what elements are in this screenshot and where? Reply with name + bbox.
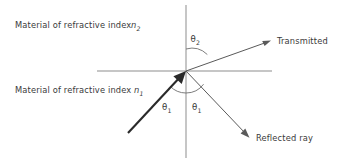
angle-label-theta1-reflection: θ [192,102,197,112]
transmitted-label: Transmitted [276,36,328,46]
reflected-label: Reflected ray [256,133,313,143]
angle-label-theta1-incidence: θ [162,102,167,112]
medium-upper-symbol: n [131,20,136,30]
medium-upper-label: Material of refractive index [15,20,131,30]
angle-label-theta2-subscript: 2 [196,39,200,46]
angle-label-theta1-reflection-subscript: 1 [198,107,202,114]
transmitted-ray-arrowhead [262,41,271,47]
medium-lower-symbol: n [134,85,139,95]
angle-label-theta1-incidence-subscript: 1 [168,107,172,114]
medium-upper-subscript: 2 [137,25,141,32]
optics-refraction-diagram: Material of refractive index n 2 Materia… [0,0,339,163]
diagram-canvas: Material of refractive index n 2 Materia… [0,0,339,163]
medium-lower-label: Material of refractive index [15,85,131,95]
angle-arc-theta1-incidence [170,86,186,93]
angle-label-theta2: θ [191,34,196,44]
angle-arc-theta2 [186,48,207,54]
transmitted-ray [186,43,266,72]
angle-arc-theta1-reflection [186,84,204,93]
medium-lower-subscript: 1 [140,90,144,97]
